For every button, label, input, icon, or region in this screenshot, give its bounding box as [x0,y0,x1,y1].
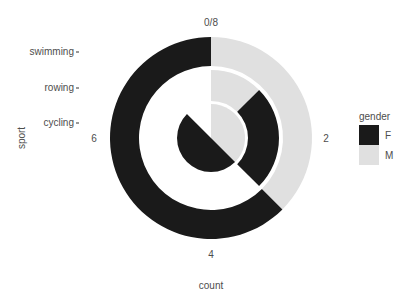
legend-key-f [359,125,379,145]
chart: 0/8 2 4 6 swimming rowing cycling count … [0,0,407,304]
legend-label-m: M [385,150,393,161]
x-axis-title: count [199,280,224,291]
tick-0: 0/8 [204,17,218,28]
legend-key-m [359,145,379,165]
label-cycling: cycling [43,117,74,128]
tick-4: 4 [208,249,214,260]
legend-title: gender [359,111,391,122]
tick-6: 6 [91,133,97,144]
y-axis-title: sport [16,127,27,149]
label-swimming: swimming [30,46,74,57]
label-rowing: rowing [45,82,74,93]
tick-2: 2 [323,133,329,144]
polar-bars [110,37,312,239]
legend-label-f: F [385,130,391,141]
